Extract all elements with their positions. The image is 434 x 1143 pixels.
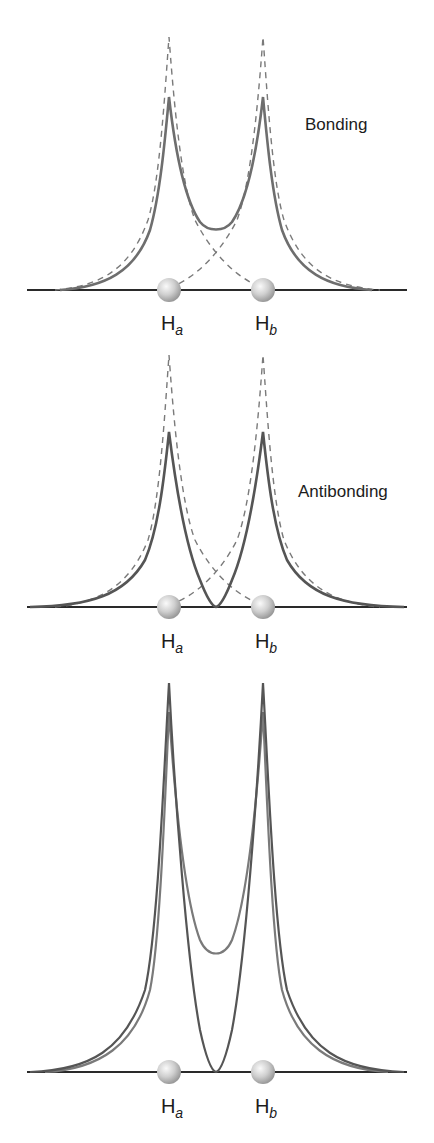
- atom-label-ha: Ha: [161, 630, 183, 656]
- bonding-ao-b-dashed: [169, 37, 380, 290]
- atom-subscript: a: [175, 322, 183, 338]
- atom-label-hb: Hb: [255, 1095, 277, 1121]
- antibonding-mo-solid: [30, 432, 404, 607]
- orbital-diagram: [0, 0, 434, 1143]
- atom-subscript: a: [175, 640, 183, 656]
- atom-subscript: b: [269, 640, 277, 656]
- atom-symbol: H: [161, 312, 175, 334]
- atom-subscript: b: [269, 322, 277, 338]
- atom-label-hb: Hb: [255, 630, 277, 656]
- atom-subscript: b: [269, 1105, 277, 1121]
- antibonding-ao-b-dashed: [169, 355, 380, 607]
- comparison-panel: [27, 683, 407, 1084]
- atom-hb-sphere: [251, 1060, 275, 1084]
- atom-symbol: H: [161, 630, 175, 652]
- atom-hb-sphere: [251, 595, 275, 619]
- antibonding-ao-a-dashed: [55, 355, 263, 607]
- comparison-antibonding-curve: [30, 683, 404, 1072]
- atom-label-ha: Ha: [161, 312, 183, 338]
- bonding-ao-a-dashed: [55, 37, 263, 290]
- atom-subscript: a: [175, 1105, 183, 1121]
- atom-symbol: H: [255, 312, 269, 334]
- atom-ha-sphere: [157, 1060, 181, 1084]
- atom-symbol: H: [161, 1095, 175, 1117]
- atom-symbol: H: [255, 1095, 269, 1117]
- atom-hb-sphere: [251, 278, 275, 302]
- atom-symbol: H: [255, 630, 269, 652]
- antibonding-title: Antibonding: [298, 482, 388, 502]
- atom-label-ha: Ha: [161, 1095, 183, 1121]
- bonding-title: Bonding: [305, 115, 367, 135]
- atom-label-hb: Hb: [255, 312, 277, 338]
- atom-ha-sphere: [157, 595, 181, 619]
- comparison-bonding-curve: [45, 712, 388, 1072]
- atom-ha-sphere: [157, 278, 181, 302]
- bonding-panel: [27, 37, 407, 302]
